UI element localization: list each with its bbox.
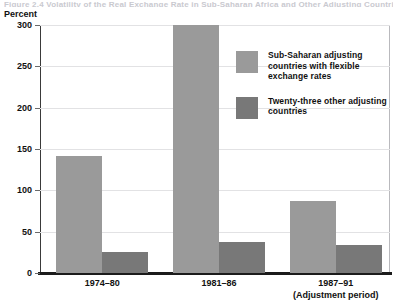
bar [102, 252, 148, 273]
bar [173, 25, 219, 273]
bar [219, 242, 265, 273]
x-tick-label: 1974–80 [85, 277, 120, 289]
legend-item: Twenty-three other adjusting countries [236, 96, 394, 119]
y-tick-label: 50 [22, 227, 32, 237]
y-tick-label: 200 [17, 103, 32, 113]
y-tick-label: 300 [17, 20, 32, 30]
figure-container: Figure 2.4 Volatility of the Real Exchan… [0, 0, 397, 300]
bar [56, 156, 102, 273]
y-tick-label: 100 [17, 185, 32, 195]
legend-swatch-icon [236, 51, 258, 73]
legend-item-label: Sub-Saharan adjusting countries with fle… [268, 50, 394, 82]
y-axis-unit-label: Percent [4, 9, 37, 19]
y-tick-mark [35, 273, 40, 274]
legend-swatch-icon [236, 97, 258, 119]
figure-title-remnant: Figure 2.4 Volatility of the Real Exchan… [4, 0, 393, 7]
y-tick-label: 250 [17, 61, 32, 71]
bar-group [40, 25, 157, 273]
x-tick-label: 1987–91(Adjustment period) [293, 277, 379, 300]
y-tick-label: 0 [27, 268, 32, 278]
bar [336, 245, 382, 273]
y-tick-label: 150 [17, 144, 32, 154]
x-tick-label: 1981–86 [201, 277, 236, 289]
legend-item: Sub-Saharan adjusting countries with fle… [236, 50, 394, 82]
x-tick-sublabel: (Adjustment period) [293, 289, 379, 300]
bar [290, 201, 336, 273]
legend-item-label: Twenty-three other adjusting countries [268, 96, 394, 117]
chart-legend: Sub-Saharan adjusting countries with fle… [236, 50, 394, 133]
